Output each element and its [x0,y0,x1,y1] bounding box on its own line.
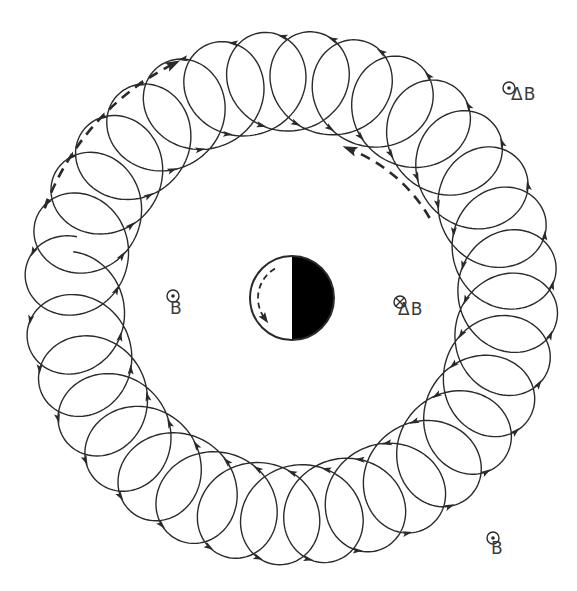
orbit-arrowhead-icon [497,137,506,149]
orbit-arrowhead-icon [450,227,456,237]
orbit-arrowhead-icon [115,491,126,503]
orbit-arrowhead-icon [128,364,134,374]
orbit-arrowhead-icon [541,230,547,240]
orbit-arrowhead-icon [143,190,155,200]
drift-orbit-diagram [0,0,577,591]
sphere-dark-half [292,256,334,340]
inner-drift-arrow [351,150,430,218]
orbit-arrowhead-icon [116,331,124,342]
orbit-arrowhead-icon [256,121,267,129]
central-sphere [250,256,334,340]
label-b-center: B [170,300,183,317]
orbit-arrowhead-icon [167,165,178,174]
sphere-rotation-arrowhead-icon [259,312,272,326]
label-delta-b-top: ΔB [511,86,536,103]
orbit-arrowhead-icon [355,131,366,142]
orbit-arrowhead-icon [26,315,34,326]
orbit-arrowhead-icon [81,455,90,467]
orbit-arrowhead-icon [447,360,458,371]
orbit-arrowhead-icon [355,456,365,462]
orbit-arrowhead-icon [165,417,174,429]
orbit-arrowhead-icon [126,220,137,231]
orbit-arrowhead-icon [444,502,456,511]
label-b-bottom: B [491,540,504,557]
orbit-arrowhead-icon [386,149,396,161]
orbit-arrowhead-icon [459,260,467,271]
orbit-arrowhead-icon [353,547,363,553]
orbit-arrowhead-icon [481,467,493,477]
orbit-arrowhead-icon [37,364,43,374]
orbit-arrowhead-icon [408,417,420,426]
orbit-arrowhead-icon [228,40,238,47]
orbit-arrowhead-icon [412,172,421,183]
gyration-orbit [25,32,557,565]
label-delta-b-inner: ΔB [398,301,423,318]
orbit-arrowhead-icon [463,100,473,112]
sphere-rotation-arrow [258,269,275,318]
orbit-arrowhead-icon [221,456,232,467]
orbit-arrowhead-icon [223,131,233,138]
orbit-arrowhead-icon [430,390,442,400]
orbit-arrowhead-icon [191,439,202,451]
orbit-arrowhead-icon [321,465,332,473]
trochoid-orbit-path [25,32,557,565]
